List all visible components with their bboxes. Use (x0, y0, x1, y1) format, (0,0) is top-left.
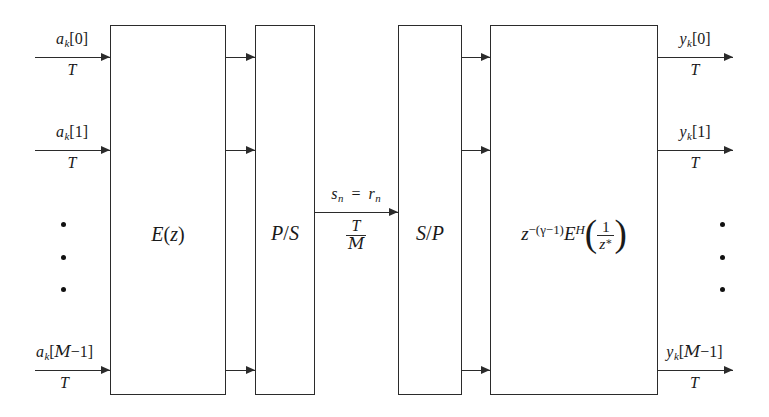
channel-rate-label: T M (313, 218, 399, 253)
ellipsis-inputs (60, 222, 66, 292)
encoder-to-ps-arrowhead-last (246, 366, 255, 374)
encoder-to-ps-arrowhead-1 (246, 146, 255, 154)
ellipsis-dot (61, 287, 66, 292)
block-serial-to-parallel: S/P (398, 25, 462, 395)
output-label-last: yk[M−1] (648, 344, 741, 362)
block-encoder: E(z) (110, 25, 226, 395)
input-arrowhead-last (101, 366, 110, 374)
input-wire-0 (35, 57, 110, 58)
input-wire-last (35, 370, 110, 371)
channel-arrowhead (389, 208, 398, 216)
ellipsis-dot (720, 255, 725, 260)
sp-to-mf-arrowhead-0 (481, 53, 490, 61)
output-rate-0: T (656, 62, 734, 78)
block-matched-filter-label: z−(γ−1)EH(1z∗) (491, 219, 657, 253)
input-arrowhead-1 (101, 146, 110, 154)
ellipsis-dot (720, 222, 725, 227)
ellipsis-outputs (719, 222, 725, 292)
encoder-to-ps-arrowhead-0 (246, 53, 255, 61)
channel-signal-label: sn = rn (313, 186, 399, 204)
ellipsis-dot (61, 255, 66, 260)
input-rate-last: T (18, 375, 111, 391)
block-matched-filter: z−(γ−1)EH(1z∗) (490, 25, 658, 395)
input-label-1: ak[1] (33, 124, 111, 142)
ellipsis-dot (61, 222, 66, 227)
input-label-last: ak[M−1] (18, 344, 111, 362)
input-label-0: ak[0] (33, 31, 111, 49)
output-rate-last: T (648, 375, 741, 391)
block-serial-to-parallel-label: S/P (399, 223, 461, 243)
block-parallel-to-serial: P/S (255, 25, 315, 395)
input-wire-1 (35, 150, 110, 151)
ellipsis-dot (720, 287, 725, 292)
block-diagram-figure: E(z) P/S S/P z−(γ−1)EH(1z∗) ak[0] T ak[1… (0, 0, 769, 417)
output-label-1: yk[1] (656, 124, 734, 142)
block-encoder-label: E(z) (111, 224, 225, 244)
output-label-0: yk[0] (656, 31, 734, 49)
channel-wire (315, 212, 398, 213)
output-wire-last (658, 370, 733, 371)
input-rate-0: T (33, 62, 111, 78)
input-rate-1: T (33, 155, 111, 171)
sp-to-mf-arrowhead-1 (481, 146, 490, 154)
sp-to-mf-arrowhead-last (481, 366, 490, 374)
output-wire-1 (658, 150, 733, 151)
block-parallel-to-serial-label: P/S (256, 223, 314, 243)
output-arrowhead-0 (724, 53, 733, 61)
output-arrowhead-1 (724, 146, 733, 154)
output-arrowhead-last (724, 366, 733, 374)
input-arrowhead-0 (101, 53, 110, 61)
output-wire-0 (658, 57, 733, 58)
output-rate-1: T (656, 155, 734, 171)
